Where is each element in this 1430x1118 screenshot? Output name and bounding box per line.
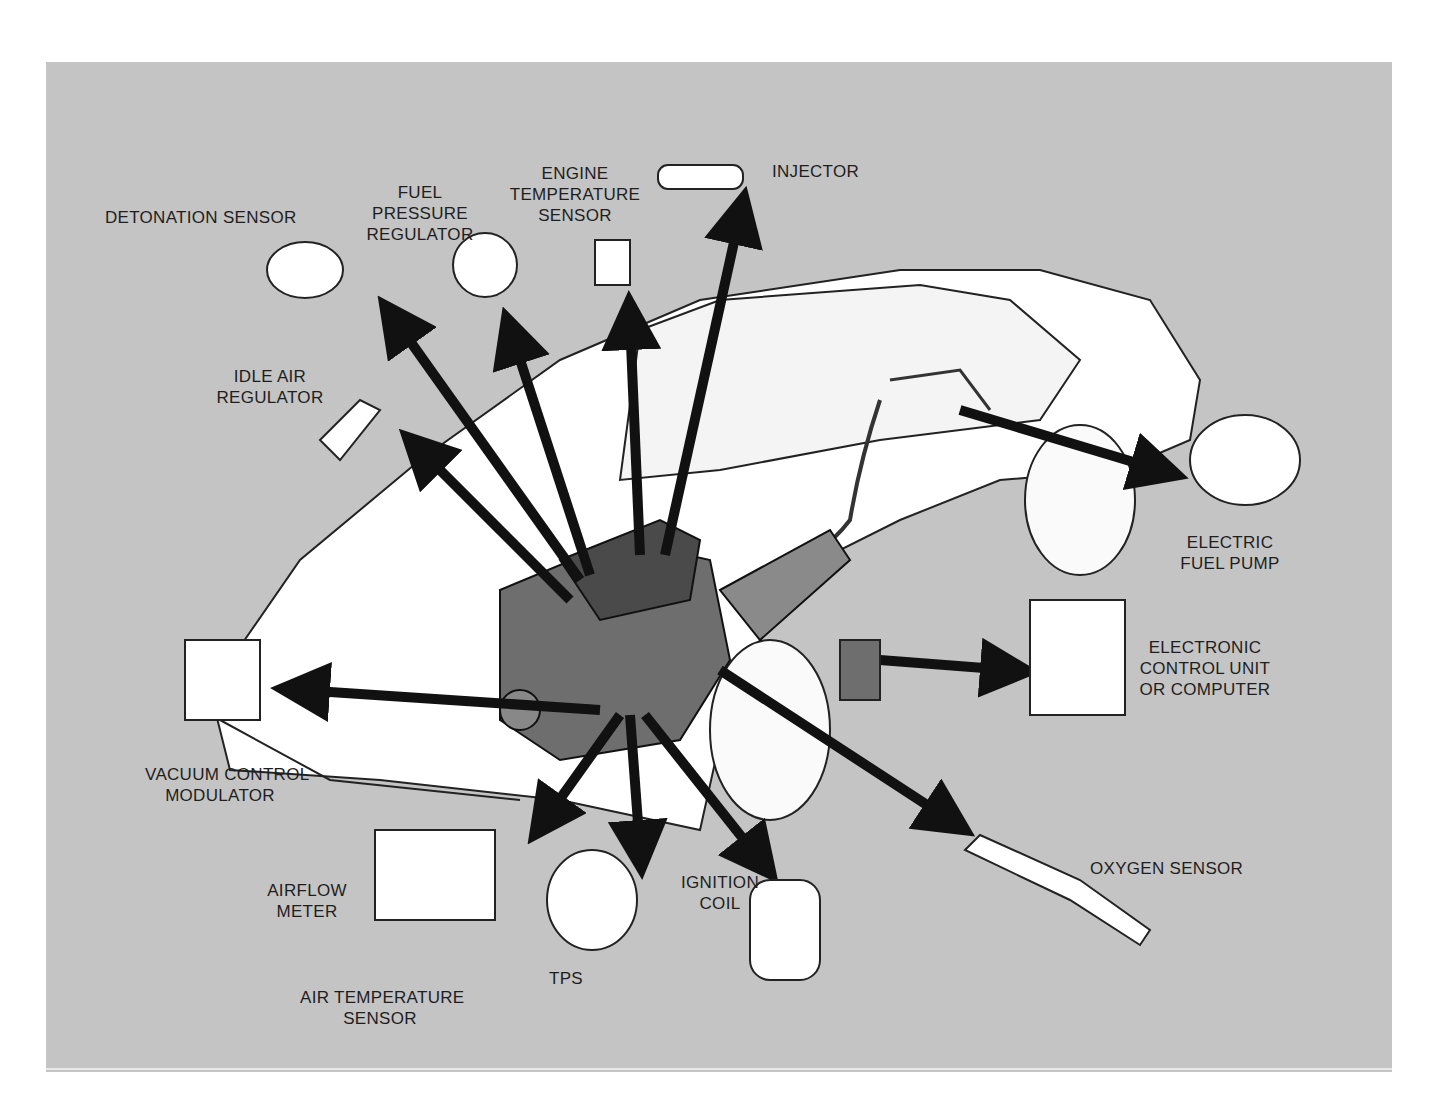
- electric-fuel-pump-part: [1190, 415, 1300, 505]
- label-ignition-coil: IGNITION COIL: [675, 872, 765, 914]
- label-electric-fuel-pump: ELECTRIC FUEL PUMP: [1175, 532, 1285, 574]
- label-air-temperature-sensor: AIR TEMPERATURE SENSOR: [300, 987, 460, 1029]
- label-airflow-meter: AIRFLOW METER: [262, 880, 352, 922]
- engine-temperature-sensor-part: [595, 240, 630, 285]
- label-vacuum-control-modulator: VACUUM CONTROL MODULATOR: [145, 764, 295, 806]
- vacuum-control-modulator-part: [185, 640, 260, 720]
- idle-air-regulator-part: [320, 400, 380, 460]
- detonation-sensor-part: [267, 242, 343, 298]
- label-idle-air-regulator: IDLE AIR REGULATOR: [210, 366, 330, 408]
- tps-part: [547, 850, 637, 950]
- ecu-part: [1030, 600, 1125, 715]
- arrow-ecu: [880, 660, 1010, 670]
- label-tps: TPS: [549, 968, 583, 989]
- label-engine-temperature-sensor: ENGINE TEMPERATURE SENSOR: [505, 163, 645, 226]
- label-electronic-control-unit: ELECTRONIC CONTROL UNIT OR COMPUTER: [1130, 637, 1280, 700]
- injector-part: [658, 165, 743, 189]
- ecu-small: [840, 640, 880, 700]
- airflow-meter-part: [375, 830, 495, 920]
- label-injector: INJECTOR: [772, 161, 859, 182]
- label-oxygen-sensor: OXYGEN SENSOR: [1090, 858, 1243, 879]
- label-fuel-pressure-regulator: FUEL PRESSURE REGULATOR: [355, 182, 485, 245]
- label-detonation-sensor: DETONATION SENSOR: [105, 207, 297, 228]
- oxygen-sensor-part: [965, 835, 1150, 945]
